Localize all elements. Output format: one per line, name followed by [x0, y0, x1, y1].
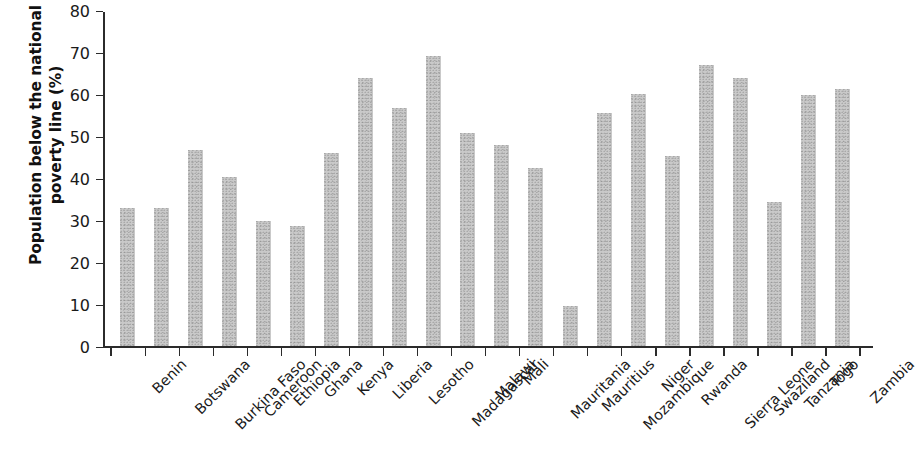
x-tick-6 [349, 348, 350, 356]
bar-tanzania [767, 202, 782, 347]
y-tick-label-60: 60 [70, 86, 90, 105]
y-tick-label-30: 30 [70, 212, 90, 231]
bar-zambia [835, 89, 850, 347]
y-tick-label-10: 10 [70, 296, 90, 315]
x-tick-13 [587, 348, 588, 356]
x-label-text: Togo [827, 356, 862, 391]
x-tick-7 [383, 348, 384, 356]
bar-togo [801, 95, 816, 347]
x-tick-8 [417, 348, 418, 356]
y-tick-10: 10 [96, 305, 103, 306]
x-label-lesotho: Lesotho [426, 356, 478, 408]
bar-swaziland [733, 78, 748, 346]
x-label-zambia: Zambia [867, 356, 917, 406]
y-tick-20: 20 [96, 263, 103, 264]
y-tick-50: 50 [96, 137, 103, 138]
y-tick-60: 60 [96, 95, 103, 96]
bar-lesotho [392, 108, 407, 347]
bar-malawi [460, 133, 475, 347]
y-tick-label-40: 40 [70, 170, 90, 189]
y-tick-label-20: 20 [70, 254, 90, 273]
y-tick-0: 0 [96, 347, 103, 348]
x-tick-9 [451, 348, 452, 356]
y-axis-title-line-2: poverty line (%) [47, 66, 67, 205]
bar-ethiopia [256, 221, 271, 346]
y-axis-title-line-1: Population below the national [27, 5, 47, 265]
x-tick-20 [825, 348, 826, 356]
x-tick-18 [757, 348, 758, 356]
bar-mauritius [563, 306, 578, 346]
x-tick-origin [110, 348, 111, 356]
x-tick-12 [553, 348, 554, 356]
plot-area: 01020304050607080 [103, 12, 873, 348]
y-tick-label-70: 70 [70, 44, 90, 63]
y-axis-line [103, 12, 105, 348]
x-tick-21 [859, 348, 860, 356]
y-tick-label-50: 50 [70, 128, 90, 147]
x-label-text: Zambia [867, 356, 917, 406]
bar-kenya [324, 153, 339, 346]
y-tick-80: 80 [96, 11, 103, 12]
bar-rwanda [665, 156, 680, 347]
y-tick-70: 70 [96, 53, 103, 54]
bar-madagascar [426, 56, 441, 347]
x-tick-15 [655, 348, 656, 356]
x-label-text: Benin [149, 356, 190, 397]
bar-botswana [154, 208, 169, 347]
y-tick-30: 30 [96, 221, 103, 222]
bar-liberia [358, 78, 373, 346]
x-tick-17 [723, 348, 724, 356]
bar-niger [631, 94, 646, 346]
y-tick-label-0: 0 [80, 338, 90, 357]
y-tick-40: 40 [96, 179, 103, 180]
y-axis-title: Population below the national poverty li… [19, 10, 75, 260]
bar-mozambique [597, 113, 612, 346]
bar-benin [120, 208, 135, 347]
bar-sierra-leone [699, 65, 714, 347]
x-tick-1 [179, 348, 180, 356]
x-label-benin: Benin [149, 356, 190, 397]
x-tick-11 [519, 348, 520, 356]
x-tick-0 [145, 348, 146, 356]
x-tick-4 [281, 348, 282, 356]
bar-mali [494, 145, 509, 346]
x-tick-2 [213, 348, 214, 356]
x-tick-19 [791, 348, 792, 356]
bar-mauritania [528, 168, 543, 346]
x-tick-16 [689, 348, 690, 356]
x-tick-3 [247, 348, 248, 356]
x-label-togo: Togo [827, 356, 862, 391]
bar-burkina-faso [188, 150, 203, 346]
x-tick-10 [485, 348, 486, 356]
y-tick-label-80: 80 [70, 2, 90, 21]
x-tick-5 [315, 348, 316, 356]
bar-cameroon [222, 177, 237, 346]
x-label-text: Lesotho [426, 356, 478, 408]
bar-ghana [290, 226, 305, 346]
